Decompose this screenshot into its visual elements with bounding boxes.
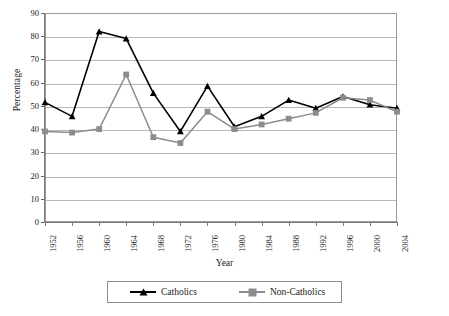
y-tick-label: 30 [31, 148, 40, 157]
data-point-triangle [150, 90, 157, 96]
x-tick-label: 1996 [346, 235, 355, 252]
y-tick-label: 40 [31, 125, 40, 134]
x-axis-title: Year [0, 258, 449, 268]
series-line [45, 75, 397, 143]
data-point-square [177, 140, 183, 146]
data-point-square [96, 126, 102, 132]
y-tick-label: 70 [31, 55, 40, 64]
x-tick-mark [343, 222, 344, 226]
legend-marker-square-icon [239, 287, 265, 297]
x-tick-mark [126, 222, 127, 226]
data-point-square [123, 72, 129, 78]
data-point-triangle [285, 97, 292, 103]
legend-item-non-catholics[interactable]: Non-Catholics [239, 287, 325, 297]
chart-legend: Catholics Non-Catholics [107, 281, 342, 303]
x-tick-label: 1956 [76, 235, 85, 252]
x-tick-mark [153, 222, 154, 226]
y-tick-label: 20 [31, 171, 40, 180]
y-tick-label: 90 [31, 9, 40, 18]
x-tick-label: 1952 [49, 235, 58, 252]
line-chart: Percentage 0102030405060708090 195219561… [0, 0, 449, 316]
x-tick-label: 1964 [130, 235, 139, 252]
y-tick-label: 60 [31, 78, 40, 87]
legend-item-catholics[interactable]: Catholics [130, 287, 197, 297]
legend-label-non-catholics: Non-Catholics [268, 287, 325, 297]
y-tick-label: 10 [31, 195, 40, 204]
x-tick-mark [45, 222, 46, 226]
x-tick-label: 2000 [373, 235, 382, 252]
data-point-square [394, 109, 400, 115]
data-point-square [69, 130, 75, 136]
x-axis-labels: 1952195619601964196819721976198019841988… [0, 228, 449, 258]
data-point-square [259, 122, 265, 128]
x-axis-ticks [0, 222, 449, 227]
data-point-square [286, 116, 292, 122]
data-point-triangle [258, 113, 265, 119]
data-point-square [340, 95, 346, 101]
x-tick-mark [370, 222, 371, 226]
x-tick-label: 1972 [184, 235, 193, 252]
series-line [45, 32, 397, 132]
x-tick-mark [262, 222, 263, 226]
data-point-square [205, 109, 211, 115]
series-layer [45, 13, 397, 222]
series-non-catholics [42, 72, 400, 146]
data-point-triangle [96, 28, 103, 34]
data-point-square [367, 97, 373, 103]
x-tick-mark [397, 222, 398, 226]
x-tick-label: 2004 [401, 235, 410, 252]
x-tick-mark [289, 222, 290, 226]
x-tick-mark [316, 222, 317, 226]
data-point-square [150, 134, 156, 140]
x-tick-mark [207, 222, 208, 226]
data-point-square [232, 126, 238, 132]
series-catholics [42, 28, 401, 134]
y-tick-label: 50 [31, 102, 40, 111]
x-tick-label: 1992 [319, 235, 328, 252]
x-tick-label: 1984 [265, 235, 274, 252]
x-tick-label: 1976 [211, 235, 220, 252]
legend-label-catholics: Catholics [159, 287, 197, 297]
x-tick-mark [180, 222, 181, 226]
x-tick-mark [235, 222, 236, 226]
x-tick-label: 1988 [292, 235, 301, 252]
x-tick-mark [99, 222, 100, 226]
data-point-triangle [69, 113, 76, 119]
data-point-square [313, 110, 319, 116]
y-tick-label: 80 [31, 32, 40, 41]
x-tick-label: 1980 [238, 235, 247, 252]
x-tick-mark [72, 222, 73, 226]
y-axis-labels: 0102030405060708090 [0, 0, 45, 222]
legend-marker-triangle-icon [130, 287, 156, 297]
x-tick-label: 1968 [157, 235, 166, 252]
data-point-square [42, 129, 48, 135]
data-point-triangle [204, 83, 211, 89]
x-tick-label: 1960 [103, 235, 112, 252]
